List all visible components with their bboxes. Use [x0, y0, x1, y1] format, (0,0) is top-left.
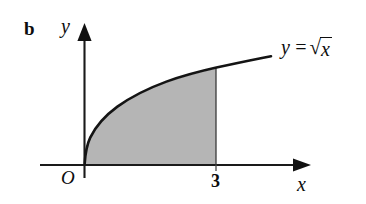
- graph-canvas: [0, 0, 366, 204]
- y-axis-label: y: [61, 16, 70, 36]
- x-axis-label: x: [297, 174, 306, 194]
- y-axis-arrowhead: [77, 23, 91, 41]
- curve-label-operator: =: [294, 37, 308, 57]
- radicand: x: [320, 37, 332, 59]
- part-label: b: [24, 19, 35, 38]
- curve-equation-label: y = √ x: [281, 37, 332, 59]
- x-axis-arrowhead: [293, 158, 311, 171]
- origin-label: O: [61, 168, 75, 187]
- figure-container: b y x O 3 y = √ x: [0, 0, 366, 204]
- radical-expression: √ x: [309, 37, 331, 59]
- x-tick-label-3: 3: [211, 172, 220, 190]
- curve-label-lhs: y: [281, 37, 290, 57]
